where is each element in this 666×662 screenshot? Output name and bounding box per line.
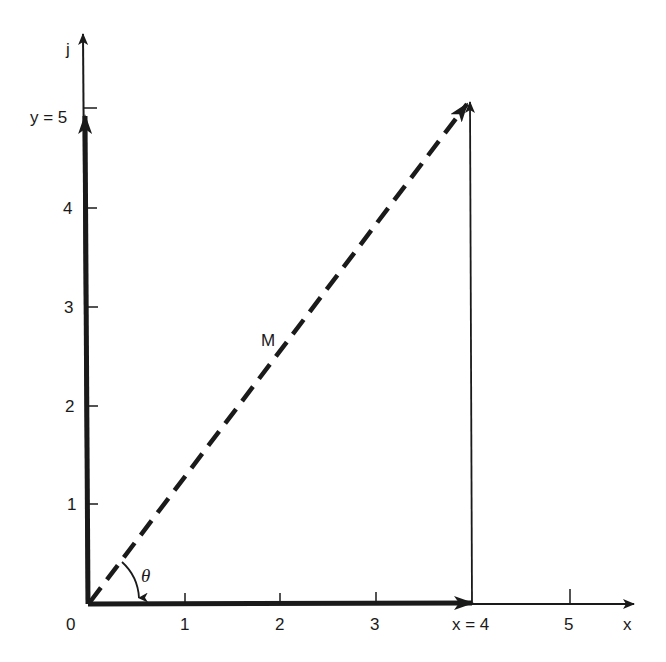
y-component-vector <box>85 116 88 604</box>
vertical-projection-line <box>470 102 472 604</box>
x-component-label: x = 4 <box>452 615 489 634</box>
y-tick-label-4: 4 <box>63 199 72 218</box>
x-tick-label-5: 5 <box>564 615 573 634</box>
x-tick-label-2: 2 <box>275 615 284 634</box>
resultant-label: M <box>261 331 275 350</box>
y-tick-label-2: 2 <box>65 397 74 416</box>
origin-label: 0 <box>66 615 75 634</box>
y-tick-label-1: 1 <box>67 495 76 514</box>
x-tick-label-3: 3 <box>370 615 379 634</box>
y-component-label: y = 5 <box>30 108 67 127</box>
y-axis-label: j <box>65 40 70 59</box>
x-tick-label-1: 1 <box>180 615 189 634</box>
x-axis-label: x <box>623 615 632 634</box>
theta-angle-arc <box>122 562 139 598</box>
resultant-vector-m <box>90 104 467 602</box>
y-tick-label-3: 3 <box>64 298 73 317</box>
vector-diagram: j y = 5 4 3 2 1 0 1 2 3 x = 4 5 x M θ <box>0 0 666 662</box>
theta-label: θ <box>141 565 150 586</box>
